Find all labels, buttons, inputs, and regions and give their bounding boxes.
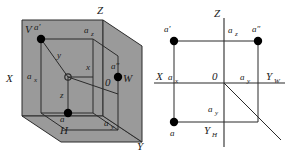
- svg-text:W: W: [274, 77, 281, 85]
- svg-text:a: a: [168, 72, 173, 82]
- label-point-a: a: [60, 114, 65, 124]
- label-origin: 0: [212, 70, 218, 82]
- label-axis-Y: Y: [137, 140, 145, 152]
- bisector-45-line: [224, 83, 281, 140]
- svg-text:y: y: [246, 77, 251, 85]
- right-diagram-svg: Z X Y W Y H 0 a' a″ a a z a x: [148, 0, 295, 154]
- right-diagram: Z X Y W Y H 0 a' a″ a a z a x: [148, 0, 295, 154]
- svg-text:a: a: [27, 71, 32, 81]
- point-a-double-prime-marker: [114, 73, 122, 81]
- label-dim-x: x: [85, 62, 90, 72]
- label-axis-Yh: Y H: [204, 124, 218, 139]
- svg-text:a: a: [104, 118, 109, 128]
- left-diagram-svg: V H W Z X Y 0 a' a a″ a z a: [0, 0, 148, 154]
- label-dim-z: z: [59, 90, 64, 100]
- svg-text:Y: Y: [204, 124, 212, 136]
- label-axis-X: X: [5, 72, 14, 84]
- point-a-marker: [170, 118, 178, 126]
- svg-text:y: y: [214, 109, 219, 117]
- svg-text:Y: Y: [266, 70, 274, 82]
- label-point-a-prime: a': [164, 24, 172, 34]
- svg-text:a: a: [208, 104, 213, 114]
- left-diagram: V H W Z X Y 0 a' a a″ a z a: [0, 0, 148, 154]
- label-point-a-double-prime: a″: [252, 24, 261, 34]
- svg-text:a': a': [34, 22, 42, 32]
- svg-text:a: a: [60, 114, 65, 124]
- label-axis-X: X: [155, 70, 164, 82]
- svg-text:a: a: [84, 25, 89, 35]
- label-point-a-double-prime: a″: [111, 61, 120, 71]
- label-point-a: a: [170, 128, 175, 138]
- point-a-marker: [64, 109, 72, 117]
- svg-text:a″: a″: [111, 61, 120, 71]
- svg-text:a: a: [240, 72, 245, 82]
- label-origin: 0: [105, 76, 111, 88]
- label-dim-y: y: [56, 50, 61, 60]
- figure-canvas: V H W Z X Y 0 a' a a″ a z a: [0, 0, 295, 154]
- label-az: a z: [228, 25, 238, 38]
- point-a-prime-marker: [170, 37, 178, 45]
- label-plane-W: W: [123, 72, 133, 84]
- label-axis-Z: Z: [214, 7, 221, 19]
- point-a-prime-marker: [37, 35, 45, 43]
- svg-text:a: a: [228, 25, 233, 35]
- svg-text:x: x: [174, 77, 179, 85]
- svg-text:z: z: [234, 30, 238, 38]
- label-axis-Z: Z: [97, 4, 104, 16]
- label-point-a-prime: a': [34, 22, 42, 32]
- point-a-double-prime-marker: [254, 37, 262, 45]
- label-ay-bottom: a y: [208, 104, 219, 117]
- svg-text:H: H: [211, 131, 218, 139]
- svg-text:z: z: [90, 30, 94, 38]
- label-plane-H: H: [59, 124, 69, 136]
